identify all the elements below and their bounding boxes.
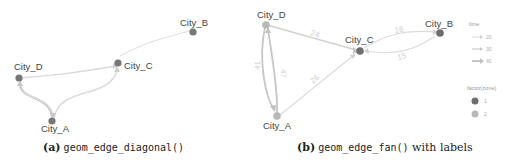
legend-zone: factor(zone) 1 2 [467,85,497,118]
edge-label-c-b-upper: 16 [394,24,405,35]
node-label-city-c: City_C [345,34,374,45]
legend-zone-item-1: 1 [472,98,488,105]
legend-time-label-1: 20 [486,34,492,40]
caption-b: (b) geom_edge_fan() with labels [297,141,473,154]
node-label-city-c: City_C [124,60,153,71]
legend-time-label-2: 30 [486,46,492,52]
arrowhead-icon [364,48,369,54]
edge-a-c [280,55,354,115]
node-city-b [436,29,444,37]
node-city-c [356,47,364,55]
arrowhead-icon [480,35,483,39]
caption-code: geom_edge_diagonal() [64,142,184,153]
edge-d-a-left [262,27,274,110]
caption-rest: with labels [408,141,472,154]
node-label-city-b: City_B [425,18,453,29]
caption-a: (a) geom_edge_diagonal() [43,141,184,154]
arrowhead-icon [480,58,484,64]
node-city-d [15,74,22,81]
caption-tag: (b) [297,141,315,154]
node-label-city-d: City_D [14,61,43,72]
caption-tag: (a) [43,141,61,154]
edge-c-b-lower [366,36,435,53]
edge-a-d [20,84,52,117]
legend-time-item-1: 20 [472,34,492,40]
network-graph-diagonal: City_D City_C City_B City_A [0,0,230,164]
node-label-city-b: City_B [180,17,208,28]
node-label-city-a: City_A [41,123,70,134]
node-city-b [189,28,196,35]
legend-zone-label-1: 1 [484,98,487,104]
legend-swatch-zone-2 [472,111,479,118]
node-label-city-d: City_D [257,9,286,20]
caption-code: geom_edge_fan() [318,142,408,153]
legend-zone-label-2: 2 [484,111,487,117]
network-graph-fan: 24 16 15 41 47 26 City_D City_C City_B C… [230,0,509,164]
node-city-c [114,59,121,66]
edge-a-c [54,70,117,118]
legend-time-label-3: 40 [486,58,492,64]
arrowhead-icon [480,47,483,51]
legend-time-item-2: 30 [472,46,492,52]
node-city-a [273,112,281,120]
legend-time: time 20 30 40 [469,21,492,64]
legend-time-item-3: 40 [472,58,492,64]
legend-swatch-zone-1 [472,98,479,105]
node-city-d [262,21,270,29]
edge-label-c-b-lower: 15 [397,51,408,62]
node-label-city-a: City_A [263,120,292,131]
edge-label-a-d-right: 47 [279,69,288,78]
edge-label-d-a-left: 41 [253,61,262,70]
panel-geom-edge-diagonal: City_D City_C City_B City_A (a) geom_edg… [0,0,230,164]
legend-zone-item-2: 2 [472,111,488,118]
legend-zone-title: factor(zone) [467,85,497,91]
edge-c-b [120,30,193,56]
legend-time-title: time [469,21,479,27]
panel-geom-edge-fan: 24 16 15 41 47 26 City_D City_C City_B C… [230,0,509,164]
arrowhead-icon [270,105,276,112]
